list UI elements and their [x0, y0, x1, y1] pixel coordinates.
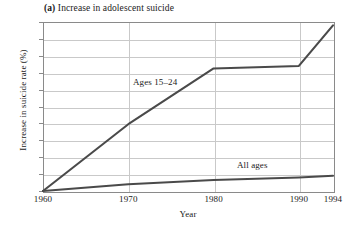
y-tick-mark	[39, 140, 43, 141]
y-tick-mark	[39, 191, 43, 192]
x-axis-title: Year	[43, 209, 333, 219]
x-tick-label: 1970	[100, 195, 156, 204]
y-tick-mark	[39, 174, 43, 175]
y-tick-mark	[39, 157, 43, 158]
gridline-horizontal	[44, 91, 334, 92]
gridline-horizontal	[44, 57, 334, 58]
x-tick-label: 1960	[15, 195, 71, 204]
y-tick-mark	[39, 90, 43, 91]
gridline-horizontal	[44, 141, 334, 142]
gridline-horizontal	[44, 124, 334, 125]
gridline-horizontal	[44, 158, 334, 159]
y-tick-mark	[39, 56, 43, 57]
gridline-horizontal	[44, 40, 334, 41]
y-axis-title: Increase in suicide rate (%)	[18, 15, 28, 185]
gridline-horizontal	[44, 175, 334, 176]
gridline-vertical	[129, 23, 130, 192]
series-label-all-ages: All ages	[237, 160, 268, 170]
figure-panel-a: (a) Increase in adolescent suicide Incre…	[0, 0, 345, 227]
panel-letter: (a)	[44, 3, 55, 13]
x-tick-label: 1994	[305, 195, 345, 204]
chart-title-text: Increase in adolescent suicide	[55, 3, 174, 13]
x-tick-label: 1980	[186, 195, 242, 204]
gridline-vertical	[215, 23, 216, 192]
gridline-horizontal	[44, 74, 334, 75]
y-tick-mark	[39, 73, 43, 74]
chart-title: (a) Increase in adolescent suicide	[44, 2, 174, 14]
y-tick-mark	[39, 39, 43, 40]
gridline-vertical	[300, 23, 301, 192]
series-label-ages-15-24: Ages 15–24	[133, 77, 177, 87]
y-tick-mark	[39, 107, 43, 108]
plot-area	[43, 22, 335, 193]
y-tick-mark	[39, 123, 43, 124]
y-tick-mark	[39, 22, 43, 23]
gridline-horizontal	[44, 108, 334, 109]
